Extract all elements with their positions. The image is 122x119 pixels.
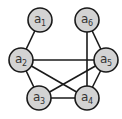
- node-subscript: 1: [41, 19, 46, 28]
- graph-diagram: a1a6a2a5a3a4: [0, 0, 122, 119]
- node-a1: a1: [28, 8, 52, 32]
- node-subscript: 6: [88, 19, 93, 28]
- node-subscript: 5: [107, 59, 112, 68]
- node-a4: a4: [75, 86, 99, 110]
- node-subscript: 3: [40, 97, 45, 106]
- node-a6: a6: [75, 8, 99, 32]
- node-a3: a3: [27, 86, 51, 110]
- node-subscript: 4: [88, 97, 93, 106]
- node-subscript: 2: [22, 59, 27, 68]
- nodes-layer: a1a6a2a5a3a4: [9, 8, 118, 110]
- node-a5: a5: [94, 48, 118, 72]
- node-a2: a2: [9, 48, 33, 72]
